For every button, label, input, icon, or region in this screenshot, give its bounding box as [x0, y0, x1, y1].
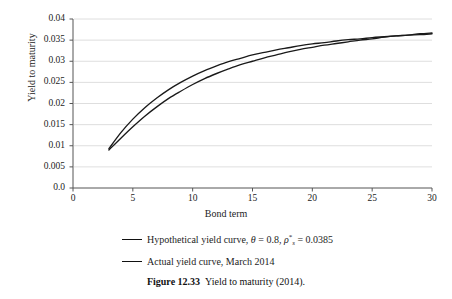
legend-label-hypothetical: Hypothetical yield curve, θ = 0.8, ρ*s =… — [147, 234, 333, 245]
figure-container: 0.00.0050.010.0150.020.0250.030.0350.04 … — [0, 0, 452, 299]
chart-canvas — [0, 0, 452, 205]
series-line-0 — [109, 34, 432, 149]
x-tick-label: 20 — [292, 194, 332, 204]
x-tick-label: 25 — [352, 194, 392, 204]
x-tick-label: 5 — [113, 194, 153, 204]
x-axis-title: Bond term — [0, 208, 452, 219]
x-tick-label: 15 — [233, 194, 273, 204]
legend-item-actual: Actual yield curve, March 2014 — [0, 250, 452, 272]
legend-line-swatch-actual — [122, 261, 142, 262]
y-tick-label: 0.01 — [10, 141, 65, 151]
y-tick-label: 0.03 — [10, 56, 65, 66]
legend-line-swatch-hypothetical — [122, 239, 142, 240]
y-axis-ticks — [70, 19, 74, 188]
theta-value: = 0.8, — [256, 234, 284, 245]
chart-legend: Hypothetical yield curve, θ = 0.8, ρ*s =… — [0, 228, 452, 272]
y-axis-title: Yield to maturity — [26, 9, 37, 127]
y-tick-label: 0.035 — [10, 35, 65, 45]
plot-area: 0.00.0050.010.0150.020.0250.030.0350.04 … — [0, 0, 452, 205]
rho-value: = 0.0385 — [295, 234, 333, 245]
legend-item-hypothetical: Hypothetical yield curve, θ = 0.8, ρ*s =… — [0, 228, 452, 250]
rho-subscript-s: s — [292, 239, 295, 247]
y-tick-label: 0.02 — [10, 99, 65, 109]
rho-symbol: ρ — [284, 234, 289, 245]
y-tick-label: 0.005 — [10, 162, 65, 172]
figure-caption-text: Yield to maturity (2014). — [205, 276, 305, 287]
y-tick-label: 0.0 — [10, 183, 65, 193]
gridlines — [74, 19, 432, 167]
figure-caption-label: Figure 12.33 — [147, 276, 200, 287]
legend-label-actual: Actual yield curve, March 2014 — [147, 256, 274, 267]
y-tick-label: 0.04 — [10, 14, 65, 24]
x-tick-label: 30 — [412, 194, 452, 204]
x-tick-label: 0 — [53, 194, 93, 204]
figure-caption: Figure 12.33Yield to maturity (2014). — [0, 276, 452, 287]
x-axis-ticks — [73, 188, 432, 192]
data-series-layer — [109, 33, 432, 150]
x-tick-label: 10 — [173, 194, 213, 204]
legend-hypothetical-prefix: Hypothetical yield curve, — [147, 234, 251, 245]
y-tick-label: 0.015 — [10, 120, 65, 130]
y-tick-label: 0.025 — [10, 77, 65, 87]
